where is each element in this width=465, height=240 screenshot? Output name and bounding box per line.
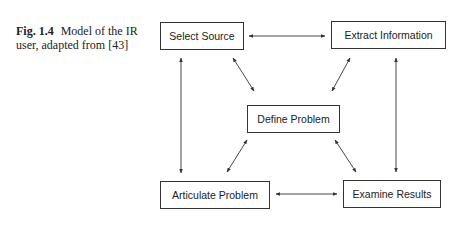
node-articulate-problem: Articulate Problem [160, 181, 270, 209]
node-examine-results: Examine Results [343, 180, 441, 208]
node-extract-information: Extract Information [331, 21, 446, 49]
node-label: Select Source [169, 30, 234, 42]
arrow-define-examine [335, 140, 356, 172]
node-select-source: Select Source [160, 22, 244, 50]
arrow-extract-define [332, 58, 350, 91]
arrow-select-define [233, 58, 254, 91]
node-label: Examine Results [353, 188, 432, 200]
node-label: Extract Information [344, 29, 432, 41]
node-label: Define Problem [257, 113, 329, 125]
arrow-define-articulate [227, 140, 247, 172]
node-label: Articulate Problem [172, 189, 258, 201]
node-define-problem: Define Problem [247, 105, 340, 133]
